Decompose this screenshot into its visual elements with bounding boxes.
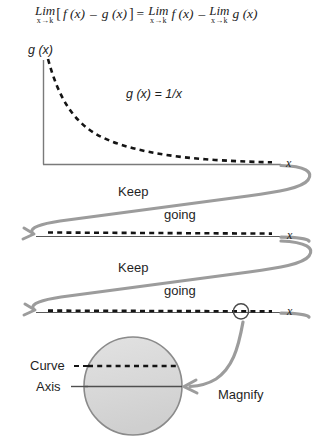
going-label-2: going: [164, 284, 196, 297]
keep-label-1: Keep: [118, 185, 148, 198]
number-line-3: [36, 304, 281, 319]
magnify-label: Magnify: [218, 388, 264, 401]
inset-curve-label: Curve: [30, 359, 65, 372]
keep-label-2: Keep: [118, 261, 148, 274]
y-axis-label: g (x): [28, 44, 53, 57]
reciprocal-curve: [48, 59, 272, 162]
flow-segment-2-tail: [281, 313, 309, 317]
flow-arrowheads: [23, 228, 35, 315]
x-axis-label-3: x: [287, 305, 292, 317]
going-label-1: going: [164, 208, 196, 221]
curve-segment-3: [48, 311, 272, 312]
inset-axis-label: Axis: [36, 380, 61, 393]
x-axis-label-2: x: [287, 229, 292, 241]
x-axis-label-1: x: [286, 157, 291, 169]
curve-equation-label: g (x) = 1/x: [126, 88, 182, 101]
magnify-arrow-shaft: [190, 322, 243, 387]
magnify-callout-arrow: [184, 322, 243, 393]
limit-difference-figure: Lim x→k [ f (x) – g (x) ] = Lim x→k f (x…: [0, 0, 331, 448]
graph-axes: [43, 60, 281, 165]
curve-segment-2: [48, 233, 272, 234]
flow-segment-1: [32, 166, 310, 233]
magnified-inset-circle: [71, 337, 182, 435]
number-line-2: [36, 233, 281, 237]
